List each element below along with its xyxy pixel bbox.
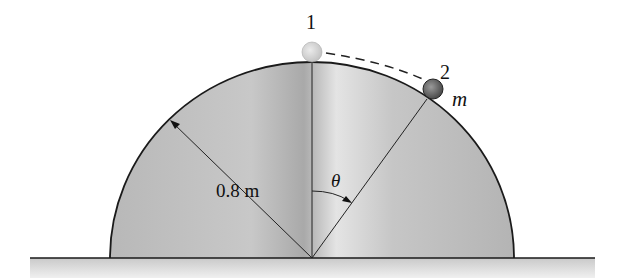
label-angle-theta: θ: [331, 171, 340, 190]
label-mass: m: [452, 89, 467, 110]
ball-position-1: [302, 42, 322, 62]
label-position-2: 2: [440, 62, 450, 82]
label-radius: 0.8 m: [216, 181, 259, 200]
diagram-canvas: 1 2 m 0.8 m θ: [0, 0, 618, 278]
diagram-svg: [0, 0, 618, 278]
ground: [30, 258, 595, 278]
label-position-1: 1: [306, 12, 316, 32]
